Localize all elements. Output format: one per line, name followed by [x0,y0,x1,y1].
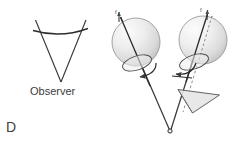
wedge-left-edge [36,20,62,82]
sphere-right-axis-tick [207,10,208,20]
panel-label-d: D [6,120,16,134]
sphere-left-group [112,12,160,86]
axis-label-left: f [115,9,117,15]
figure-panel-d: Observer D f f O [0,0,233,143]
observer-wedge-group [33,20,88,82]
axis-label-right: f [200,7,202,13]
cone-wedge-shape [178,90,220,114]
cone-wedge-group [178,90,220,114]
wedge-arc [33,29,88,35]
origin-label: O [168,129,172,134]
sphere-right-base-tick [172,76,192,78]
figure-drawing [0,0,233,143]
wedge-right-edge [61,20,86,82]
observer-label: Observer [30,86,75,97]
sphere-right-group [172,10,227,82]
